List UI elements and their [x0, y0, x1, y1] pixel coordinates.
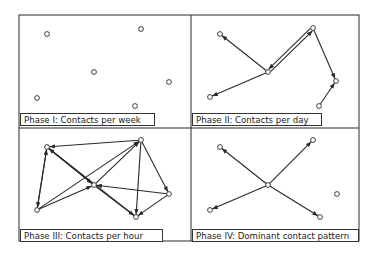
phase-4-caption: Phase IV: Dominant contact pattern — [192, 229, 359, 242]
person-node — [134, 215, 139, 220]
person-node — [218, 145, 223, 150]
person-node — [35, 208, 40, 213]
phase-2-caption: Phase II: Contacts per day — [192, 113, 322, 126]
contact-edge — [138, 195, 167, 215]
contact-edge — [142, 142, 168, 192]
phase-1-caption: Phase I: Contacts per week — [20, 113, 155, 126]
contact-edge — [314, 30, 335, 79]
person-node — [92, 70, 97, 75]
person-node — [266, 70, 271, 75]
contact-edge — [96, 185, 166, 193]
contact-edge — [39, 141, 139, 208]
person-node — [167, 192, 172, 197]
person-node — [266, 183, 271, 188]
phase-3-panel — [35, 138, 172, 220]
contact-edge — [212, 73, 266, 96]
person-node — [35, 96, 40, 101]
person-node — [335, 192, 340, 197]
contact-edge — [39, 186, 92, 209]
contact-edge — [271, 31, 313, 72]
contact-edge — [320, 83, 334, 104]
person-node — [311, 26, 316, 31]
contact-edge — [222, 35, 266, 70]
contact-pattern-diagram — [0, 0, 377, 254]
contact-edge — [37, 149, 46, 207]
phase-4-panel — [208, 138, 340, 220]
contact-edge — [96, 142, 140, 184]
person-node — [139, 27, 144, 32]
person-node — [318, 215, 323, 220]
person-node — [208, 95, 213, 100]
contact-edge — [222, 148, 266, 183]
person-node — [167, 80, 172, 85]
phase-3-caption: Phase III: Contacts per hour — [20, 229, 163, 242]
contact-edge — [49, 140, 138, 147]
contact-edge — [269, 29, 311, 70]
panel-frame — [19, 15, 359, 241]
person-node — [317, 104, 322, 109]
phase-2-panel — [208, 26, 339, 109]
phase-1-panel — [35, 27, 172, 109]
person-node — [139, 138, 144, 143]
contact-edge — [212, 186, 266, 209]
person-node — [218, 32, 223, 37]
person-node — [45, 145, 50, 150]
contact-edge — [270, 142, 312, 184]
person-node — [45, 32, 50, 37]
contact-edge — [136, 142, 141, 214]
person-node — [133, 104, 138, 109]
person-node — [92, 183, 97, 188]
person-node — [311, 138, 316, 143]
person-node — [334, 79, 339, 84]
contact-edge — [270, 186, 318, 215]
person-node — [208, 208, 213, 213]
